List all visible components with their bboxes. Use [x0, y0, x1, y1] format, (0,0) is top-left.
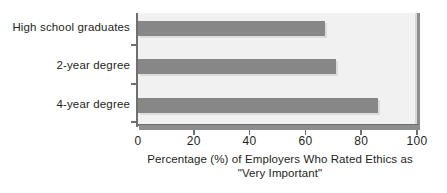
- bar-chart: High school graduates 2-year degree 4-ye…: [0, 0, 447, 193]
- x-axis-title: Percentage (%) of Employers Who Rated Et…: [120, 152, 440, 180]
- plot-right-edge: [417, 13, 420, 130]
- x-axis-tick-label: 80: [354, 134, 368, 148]
- bar-4-year-degree: [138, 98, 378, 113]
- x-axis-tick-label: 40: [243, 134, 257, 148]
- category-label-2-year-degree: 2-year degree: [56, 59, 130, 71]
- x-axis-tick-label: 0: [135, 134, 142, 148]
- y-axis-tick: [131, 121, 137, 123]
- category-label-high-school-graduates: High school graduates: [12, 21, 130, 33]
- x-axis-tick-label: 60: [298, 134, 312, 148]
- x-axis-shadow-bar: [139, 125, 419, 130]
- category-label-4-year-degree: 4-year degree: [56, 98, 130, 110]
- y-axis-tick: [131, 83, 137, 85]
- x-axis-title-line-2: "Very Important": [120, 166, 440, 180]
- bar-high-school-graduates: [138, 21, 325, 36]
- x-axis-tick-label: 100: [407, 134, 428, 148]
- y-axis-line: [136, 13, 138, 127]
- x-axis-title-line-1: Percentage (%) of Employers Who Rated Et…: [120, 152, 440, 166]
- y-axis-tick: [131, 44, 137, 46]
- bar-2-year-degree: [138, 59, 336, 74]
- x-axis-tick-label: 20: [187, 134, 201, 148]
- category-axis-labels: High school graduates 2-year degree 4-ye…: [0, 12, 134, 125]
